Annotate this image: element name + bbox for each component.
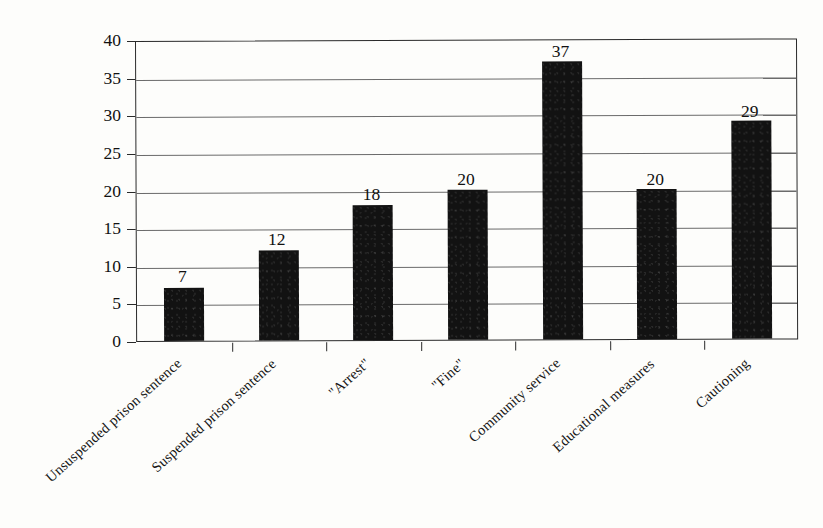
- bar: [448, 189, 489, 340]
- bar: [542, 61, 583, 340]
- data-label: 18: [341, 186, 401, 204]
- y-tick-label-35: 35: [83, 70, 121, 88]
- y-tick-15: [127, 229, 136, 230]
- bar-chart: 0510152025303540 7121820372029 Unsuspend…: [0, 0, 823, 528]
- y-tick-label-5: 5: [83, 295, 121, 313]
- x-axis-label: Cautioning: [693, 356, 752, 411]
- bar: [637, 188, 678, 339]
- bar: [164, 288, 204, 341]
- y-tick-5: [127, 304, 136, 305]
- data-label: 12: [247, 231, 307, 249]
- gridline-30: [136, 115, 796, 119]
- y-tick-label-25: 25: [83, 145, 121, 163]
- data-label: 7: [152, 268, 212, 286]
- bar: [259, 250, 299, 340]
- bar-series: [136, 39, 796, 42]
- x-tick: [421, 342, 422, 351]
- data-label: 29: [720, 103, 780, 121]
- gridline-35: [136, 77, 796, 81]
- bar: [353, 205, 394, 341]
- bar: [731, 120, 772, 338]
- x-axis-label: "Arrest": [326, 356, 373, 400]
- data-label: 37: [531, 43, 591, 61]
- y-tick-label-20: 20: [83, 183, 121, 201]
- x-axis-label: "Fine": [429, 356, 468, 393]
- y-tick-label-15: 15: [83, 220, 121, 238]
- gridline-25: [136, 152, 796, 156]
- x-axis-label: Community service: [466, 356, 563, 445]
- x-tick: [705, 341, 706, 350]
- x-tick: [326, 342, 327, 351]
- data-label: 20: [436, 171, 496, 189]
- x-axis-label: Educational measures: [550, 356, 657, 454]
- y-tick-0: [127, 342, 136, 343]
- y-tick-label-0: 0: [83, 333, 121, 351]
- y-tick-label-40: 40: [83, 32, 121, 50]
- y-tick-label-30: 30: [83, 107, 121, 125]
- gridlines: [136, 39, 796, 42]
- x-tick: [232, 343, 233, 352]
- x-tick: [515, 342, 516, 351]
- x-axis-ticks: [136, 39, 796, 42]
- plot-area: [135, 38, 798, 342]
- y-tick-label-10: 10: [83, 258, 121, 276]
- x-tick: [610, 341, 611, 350]
- data-label: 20: [625, 171, 685, 189]
- y-tick-10: [127, 267, 136, 268]
